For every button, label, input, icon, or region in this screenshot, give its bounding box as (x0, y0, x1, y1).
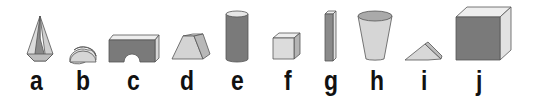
shape-f-small-cube-icon (273, 33, 300, 59)
shape-h-cup-icon (358, 11, 392, 60)
shape-e-cylinder-icon (226, 11, 248, 62)
label-e: e (231, 66, 244, 96)
label-i: i (421, 66, 427, 96)
label-g: g (324, 66, 338, 96)
shape-c-arch-block-icon (109, 35, 159, 62)
shape-j-large-cube-icon (456, 7, 511, 60)
shape-g-tall-prism-icon (325, 11, 336, 61)
label-j: j (476, 66, 482, 96)
shape-d-trapezoid-prism-icon (172, 34, 210, 59)
shape-a-pyramid-icon (27, 16, 53, 61)
label-f: f (284, 66, 292, 96)
label-c: c (127, 66, 140, 96)
label-d: d (180, 66, 194, 96)
shapes-figure: a b c d e f g h i j (0, 0, 539, 103)
label-a: a (30, 66, 43, 96)
label-h: h (370, 66, 384, 96)
label-b: b (76, 66, 90, 96)
shape-i-triangular-prism-icon (405, 42, 442, 60)
shape-b-half-cylinder-icon (70, 47, 96, 64)
